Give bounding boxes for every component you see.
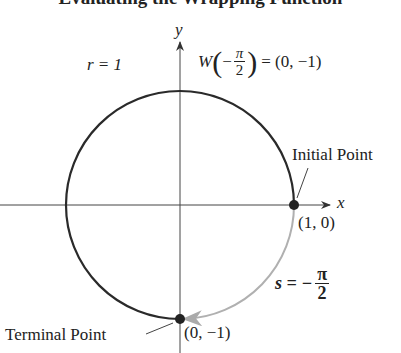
terminal-point-label: Terminal Point bbox=[5, 325, 106, 345]
initial-point-leader bbox=[297, 168, 308, 198]
x-axis-label: x bbox=[337, 193, 345, 213]
y-axis-label: y bbox=[175, 20, 183, 40]
initial-point-dot bbox=[289, 200, 299, 210]
initial-point-label: Initial Point bbox=[292, 145, 373, 165]
terminal-point-coords: (0, −1) bbox=[184, 323, 230, 343]
wrapping-function-equation: W ( − π 2 ) = (0, −1) bbox=[198, 45, 322, 78]
terminal-point-leader bbox=[146, 323, 173, 334]
figure-title: Evaluating the Wrapping Function bbox=[0, 0, 401, 9]
arc-length-label: s = − π 2 bbox=[275, 265, 329, 302]
radius-label: r = 1 bbox=[87, 55, 122, 75]
initial-point-coords: (1, 0) bbox=[298, 213, 335, 233]
